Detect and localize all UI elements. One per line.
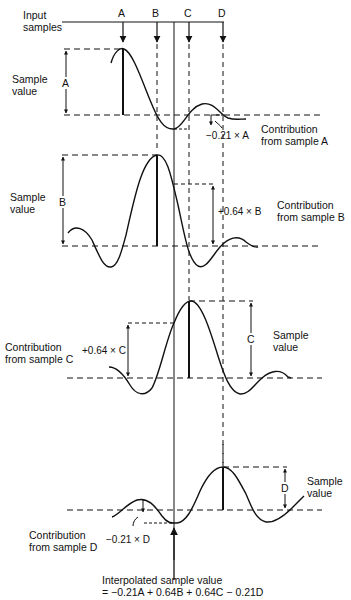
label-line: value [12,85,48,97]
result-formula: = −0.21A + 0.64B + 0.64C − 0.21D [102,586,263,598]
panel-d-contribution-label: Contribution from sample D [29,529,97,553]
label-line: Sample [273,329,309,341]
interpolation-diagram [0,0,351,600]
panel-c-contribution-value: +0.64 × C [82,345,126,357]
label-line: from sample A [261,135,328,147]
label-line: Contribution [277,199,345,211]
label-line: value [273,341,309,353]
panel-a [64,49,322,129]
panel-c-contribution-label: Contribution from sample C [5,341,73,365]
label-line: Contribution [261,123,328,135]
label-line: Sample [12,73,48,85]
panel-c-sample-value-label: Sample value [273,329,309,353]
label-line: from sample C [5,353,73,365]
interpolated-result-label: Interpolated sample value = −0.21A + 0.6… [102,574,263,598]
sample-letter-a: A [118,7,125,19]
result-line1: Interpolated sample value [102,574,263,586]
panel-c-dimension-letter: C [247,333,255,345]
label-line: value [307,487,343,499]
panel-b-dimension-letter: B [59,196,66,208]
label-line: Sample [10,191,46,203]
panel-b-sample-value-label: Sample value [10,191,46,215]
sample-letter-d: D [218,7,226,19]
panel-d-dimension-letter: D [281,482,289,494]
panel-b-contribution-label: Contribution from sample B [277,199,345,223]
label-line: Contribution [29,529,97,541]
sample-letter-b: B [152,7,159,19]
panel-a-contribution-value: −0.21 × A [206,130,249,142]
input-samples-line1: Input [23,9,62,21]
panel-d-sample-value-label: Sample value [307,475,343,499]
panel-a-contribution-label: Contribution from sample A [261,123,328,147]
panel-b-contribution-value: +0.64 × B [218,206,261,218]
panel-d-contribution-value: −0.21 × D [106,534,150,546]
input-samples-line2: samples [23,21,62,33]
label-line: Contribution [5,341,73,353]
label-line: value [10,203,46,215]
input-samples-header [62,22,224,42]
input-samples-label: Input samples [23,9,62,33]
label-line: from sample B [277,211,345,223]
panel-a-sample-value-label: Sample value [12,73,48,97]
label-line: from sample D [29,541,97,553]
panel-a-dimension-letter: A [62,77,69,89]
sample-letter-c: C [184,7,192,19]
label-line: Sample [307,475,343,487]
